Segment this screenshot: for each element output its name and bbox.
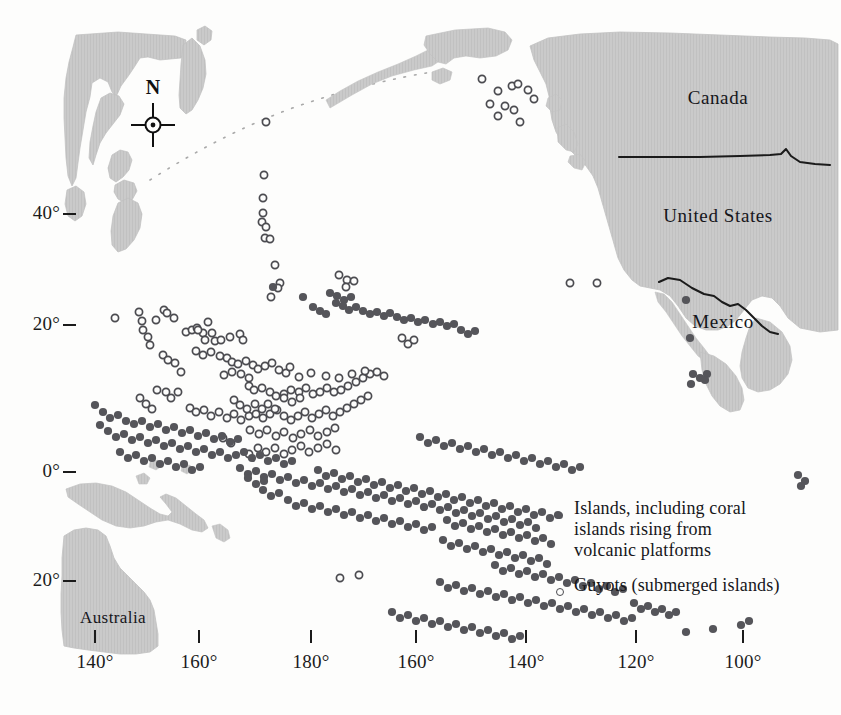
island-marker: [426, 487, 434, 495]
island-marker: [434, 493, 442, 501]
island-marker: [439, 536, 447, 544]
landmass-alaska: [424, 28, 512, 84]
island-marker: [386, 309, 394, 317]
guyot-marker: [266, 235, 273, 242]
island-marker: [442, 490, 450, 498]
island-marker: [192, 448, 200, 456]
island-marker: [136, 433, 144, 441]
island-marker: [326, 289, 334, 297]
legend-line: volcanic platforms: [574, 540, 746, 561]
island-marker: [488, 451, 496, 459]
island-marker: [528, 454, 536, 462]
island-marker: [476, 629, 484, 637]
island-marker: [504, 454, 512, 462]
island-marker: [333, 292, 341, 300]
legend-label-guyots: Guyots (submerged islands): [574, 575, 780, 596]
guyot-marker: [355, 571, 362, 578]
island-marker: [620, 617, 628, 625]
guyot-marker: [138, 317, 145, 324]
island-marker: [682, 628, 690, 636]
guyot-marker: [350, 400, 357, 407]
island-marker: [370, 481, 378, 489]
island-marker: [794, 471, 802, 479]
island-marker: [440, 442, 448, 450]
island-marker: [436, 318, 444, 326]
guyot-marker: [192, 408, 199, 415]
guyot-marker: [410, 336, 417, 343]
island-marker: [459, 519, 467, 527]
island-marker: [364, 488, 372, 496]
island-marker: [420, 503, 428, 511]
island-marker: [112, 433, 120, 441]
island-marker: [259, 486, 267, 494]
guyot-marker: [336, 408, 343, 415]
guyot-marker: [329, 412, 336, 419]
guyot-marker: [530, 95, 537, 102]
guyot-marker: [136, 394, 143, 401]
island-marker: [492, 632, 500, 640]
island-marker: [476, 509, 484, 517]
island-marker: [539, 570, 547, 578]
island-marker: [568, 466, 576, 474]
guyot-marker: [237, 416, 244, 423]
country-label-mexico: Mexico: [692, 311, 754, 333]
guyot-marker: [250, 386, 257, 393]
legend-item-islands: Islands, including coral islands rising …: [556, 498, 838, 561]
island-marker: [308, 482, 316, 490]
island-marker: [324, 508, 332, 516]
island-marker: [292, 502, 300, 510]
island-marker: [412, 497, 420, 505]
island-marker: [146, 423, 154, 431]
island-marker: [366, 310, 374, 318]
island-marker: [515, 534, 523, 542]
island-marker: [503, 548, 511, 556]
island-marker: [468, 584, 476, 592]
island-marker: [538, 508, 546, 516]
island-marker: [130, 420, 138, 428]
island-marker: [516, 521, 524, 529]
island-marker: [378, 478, 386, 486]
island-marker: [322, 472, 330, 480]
guyot-marker: [260, 171, 267, 178]
island-marker: [492, 593, 500, 601]
guyot-marker: [245, 412, 252, 419]
island-marker: [540, 602, 548, 610]
guyot-marker: [245, 374, 252, 381]
guyot-marker: [272, 392, 279, 399]
island-marker: [348, 485, 356, 493]
island-marker: [106, 414, 114, 422]
island-marker: [99, 408, 107, 416]
guyot-marker: [344, 382, 351, 389]
island-marker: [498, 505, 506, 513]
island-marker: [272, 454, 280, 462]
guyot-marker: [331, 424, 338, 431]
island-marker: [456, 445, 464, 453]
guyot-marker: [199, 351, 206, 358]
island-marker: [356, 491, 364, 499]
island-marker: [128, 436, 136, 444]
guyot-marker: [478, 75, 485, 82]
island-marker: [444, 503, 452, 511]
island-marker: [508, 635, 516, 643]
island-marker: [482, 502, 490, 510]
x-axis-tick-label: 180°: [271, 651, 351, 673]
island-marker: [508, 596, 516, 604]
island-marker: [180, 460, 188, 468]
island-marker: [210, 435, 218, 443]
guyot-marker: [307, 369, 314, 376]
guyot-marker: [380, 372, 387, 379]
island-marker: [448, 439, 456, 447]
island-marker: [122, 417, 130, 425]
guyot-marker: [295, 373, 302, 380]
island-marker: [184, 442, 192, 450]
island-marker: [499, 567, 507, 575]
island-marker: [412, 520, 420, 528]
island-marker: [522, 505, 530, 513]
filled-circle-icon: [556, 512, 563, 519]
island-marker: [552, 463, 560, 471]
island-marker: [359, 307, 367, 315]
guyot-marker: [305, 448, 312, 455]
island-marker: [471, 327, 479, 335]
island-marker: [686, 334, 694, 342]
island-marker: [168, 439, 176, 447]
